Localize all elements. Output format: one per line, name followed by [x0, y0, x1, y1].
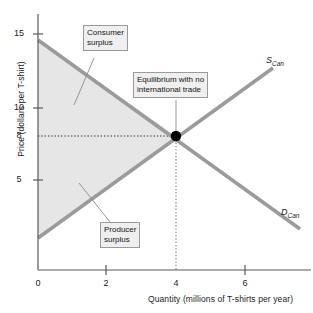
equilibrium-callout-line1: Equilibrium with no [137, 75, 204, 85]
consumer-surplus-callout: Consumer surplus [83, 25, 128, 51]
equilibrium-callout: Equilibrium with no international trade [133, 72, 208, 98]
y-tick-label-5: 5 [10, 174, 28, 184]
x-tick-label-4: 4 [167, 278, 185, 288]
demand-curve-label-subscript: Can [288, 212, 300, 219]
supply-curve-label: SCan [266, 55, 284, 67]
consumer-surplus-callout-line2: surplus [87, 38, 124, 48]
consumer-surplus-callout-line1: Consumer [87, 28, 124, 38]
equilibrium-callout-line2: international trade [137, 85, 204, 95]
demand-curve-label: DCan [281, 207, 299, 219]
x-tick-label-6: 6 [236, 278, 254, 288]
producer-surplus-callout-line2: surplus [104, 235, 136, 245]
chart-canvas [0, 0, 313, 313]
x-axis-title: Quantity (millions of T-shirts per year) [148, 294, 293, 304]
y-tick-label-8: 8 [10, 130, 28, 140]
supply-curve-label-subscript: Can [272, 60, 284, 67]
y-tick-label-15: 15 [10, 28, 28, 38]
equilibrium-point-marker [171, 131, 181, 141]
supply-demand-figure: Price (dollars per T-shirt) Quantity (mi… [0, 0, 313, 313]
x-tick-label-0: 0 [29, 278, 47, 288]
producer-surplus-callout-line1: Producer [104, 225, 136, 235]
y-tick-label-10: 10 [10, 102, 28, 112]
producer-surplus-callout: Producer surplus [100, 222, 140, 248]
x-tick-label-2: 2 [97, 278, 115, 288]
